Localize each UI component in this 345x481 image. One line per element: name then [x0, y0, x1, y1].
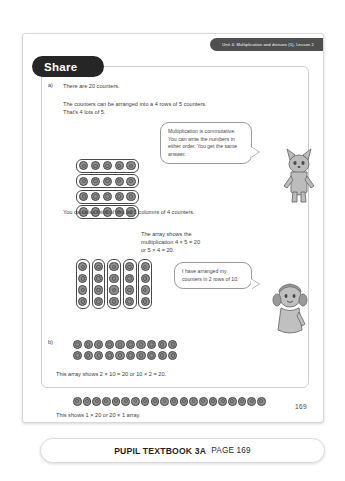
counter [103, 161, 112, 170]
counter [121, 397, 130, 406]
counter [238, 397, 247, 406]
speech-bubble-commutative-text: Multiplication is commutative. You can w… [168, 128, 237, 157]
counter [91, 192, 100, 201]
unit-banner: Unit 4: Multiplication and division (1),… [210, 38, 323, 51]
counter [109, 262, 118, 271]
counter [79, 192, 88, 201]
counter [189, 397, 198, 406]
counter [141, 297, 150, 306]
counter [125, 285, 134, 294]
counter [78, 285, 87, 294]
counter [115, 351, 124, 360]
screenshot-root: Unit 4: Multiplication and division (1),… [0, 0, 345, 481]
counter [141, 285, 150, 294]
part-b-marker: b) [48, 339, 53, 345]
speech-bubble-arranged: I have arranged my counters in 2 rows of… [174, 262, 252, 289]
counter [109, 297, 118, 306]
counter [94, 351, 103, 360]
girl-character [272, 278, 308, 340]
speech-bubble-tail [251, 147, 259, 157]
share-section-pill: Share [32, 56, 104, 77]
counter-column-group [92, 259, 106, 309]
counter-array-1-row-of-20 [73, 397, 266, 407]
counter [112, 397, 121, 406]
counter [257, 397, 266, 406]
counter [78, 274, 87, 283]
counter [94, 297, 103, 306]
counter [168, 351, 177, 360]
counter [228, 397, 237, 406]
counter [73, 397, 82, 406]
counter [126, 340, 135, 349]
counter [136, 351, 145, 360]
counter [94, 285, 103, 294]
counter [94, 340, 103, 349]
part-b-caption: This array shows 2 × 10 = 20 or 10 × 2 =… [56, 370, 166, 378]
counter-row-group [76, 190, 139, 204]
counter [91, 177, 100, 186]
counter [141, 262, 150, 271]
counter-row [73, 397, 266, 406]
counter [78, 297, 87, 306]
counter [141, 397, 150, 406]
counter-column-group [138, 259, 152, 309]
counter [180, 397, 189, 406]
counter [109, 285, 118, 294]
counter [84, 351, 93, 360]
counter-row [73, 351, 177, 360]
counter [105, 351, 114, 360]
counter [94, 262, 103, 271]
speech-bubble-tail [251, 279, 259, 289]
part-a-line-3: That's 4 lots of 5. [63, 108, 105, 116]
part-a-line-2: The counters can be arranged into a 4 ro… [63, 100, 207, 108]
counter [115, 340, 124, 349]
counter [126, 177, 135, 186]
counter [247, 397, 256, 406]
counter [209, 397, 218, 406]
array-note-line-2: multiplication 4 × 5 = 20 [141, 238, 200, 246]
counter [115, 192, 124, 201]
textbook-page-card: Unit 4: Multiplication and division (1),… [22, 33, 324, 423]
counter-column-group [123, 259, 137, 309]
counter [158, 351, 167, 360]
counter [160, 397, 169, 406]
counter [78, 262, 87, 271]
counter [136, 340, 145, 349]
counter [147, 340, 156, 349]
part-a-line-4: You can also think of this as 5 columns … [63, 208, 195, 216]
counter [141, 274, 150, 283]
counter [147, 351, 156, 360]
speech-bubble-commutative: Multiplication is commutative. You can w… [160, 122, 252, 164]
array-note-line-1: The array shows the [141, 230, 192, 238]
counter [131, 397, 140, 406]
counter-array-2-rows-of-10 [73, 340, 177, 362]
counter [125, 274, 134, 283]
counter [109, 274, 118, 283]
counter [102, 397, 111, 406]
counter [126, 192, 135, 201]
counter [126, 351, 135, 360]
counter [158, 340, 167, 349]
part-a-marker: a) [48, 82, 53, 88]
counter [73, 340, 82, 349]
counter [84, 340, 93, 349]
counter-column-group [76, 259, 90, 309]
counter-row-group [76, 159, 139, 173]
counter [79, 161, 88, 170]
part-a-line-1: There are 20 counters. [63, 82, 120, 90]
counter [94, 274, 103, 283]
counter [92, 397, 101, 406]
counter [170, 397, 179, 406]
counter [218, 397, 227, 406]
counter [103, 192, 112, 201]
counter [73, 351, 82, 360]
counter [126, 161, 135, 170]
counter [105, 340, 114, 349]
counter [83, 397, 92, 406]
counter-row [73, 340, 177, 349]
counter [125, 297, 134, 306]
fox-character [282, 142, 316, 204]
array-note-line-3: or 5 × 4 = 20. [141, 246, 174, 254]
counter-array-5-columns-of-4 [76, 259, 152, 309]
counter [168, 340, 177, 349]
